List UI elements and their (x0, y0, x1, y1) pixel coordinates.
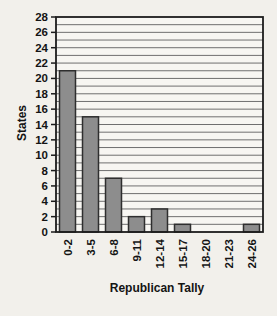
x-tick-label: 21-23 (223, 239, 235, 268)
chart-page: 02468101214161820222426280-23-56-89-1112… (0, 0, 277, 316)
x-tick-label: 3-5 (85, 238, 97, 255)
y-tick-label: 24 (35, 42, 48, 54)
y-tick-label: 10 (35, 149, 48, 161)
y-tick-label: 4 (42, 195, 49, 207)
y-axis-title: States (15, 73, 29, 173)
x-tick-label: 9-11 (131, 238, 143, 261)
x-tick-label: 15-17 (177, 239, 189, 268)
y-tick-label: 22 (35, 57, 48, 69)
bar (83, 117, 99, 232)
x-tick-label: 18-20 (200, 239, 212, 268)
y-tick-label: 12 (35, 134, 48, 146)
y-tick-label: 16 (35, 103, 48, 115)
bar (106, 178, 122, 232)
bar (60, 71, 76, 232)
x-tick-label: 12-14 (154, 238, 166, 268)
plot-svg: 02468101214161820222426280-23-56-89-1112… (0, 0, 277, 316)
y-tick-label: 6 (42, 180, 48, 192)
x-axis-title: Republican Tally (57, 281, 257, 295)
x-tick-label: 0-2 (62, 239, 74, 256)
y-tick-label: 26 (35, 26, 48, 38)
y-tick-label: 2 (42, 211, 48, 223)
bar (152, 209, 168, 232)
y-tick-label: 20 (35, 72, 48, 84)
y-tick-label: 8 (42, 165, 49, 177)
y-tick-label: 18 (35, 88, 48, 100)
y-tick-label: 28 (35, 11, 48, 23)
bar (244, 224, 260, 232)
y-tick-label: 14 (35, 119, 48, 131)
bar (175, 224, 191, 232)
y-tick-label: 0 (42, 226, 48, 238)
x-tick-label: 24-26 (246, 239, 258, 268)
x-tick-label: 6-8 (108, 238, 120, 255)
bar (129, 217, 145, 232)
